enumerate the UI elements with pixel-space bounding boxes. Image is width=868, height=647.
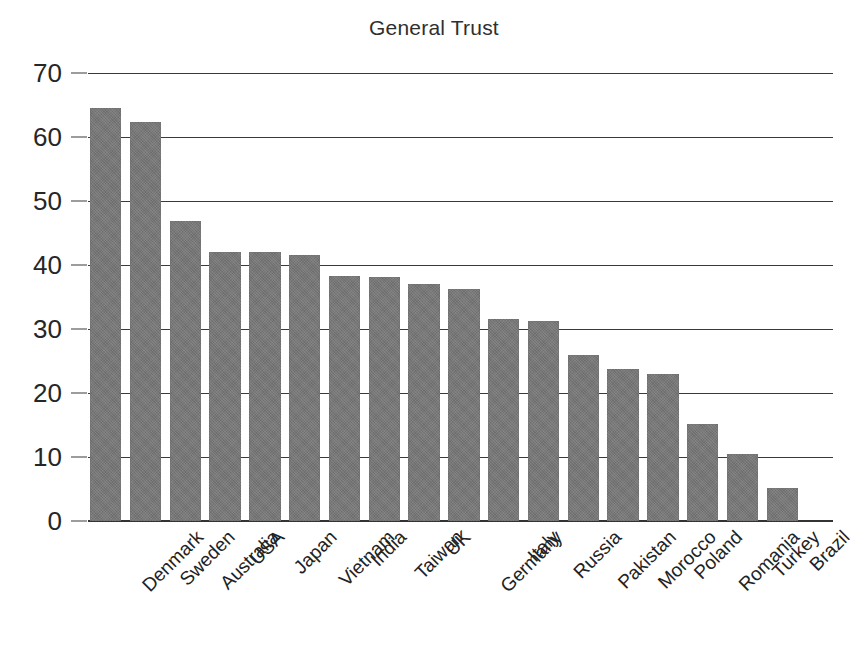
- bar: [249, 252, 280, 521]
- y-tick-label: 40: [33, 252, 62, 278]
- bar: [528, 321, 559, 521]
- plot-area: [88, 73, 833, 521]
- y-tick-label: 0: [48, 508, 62, 534]
- y-tick-label: 60: [33, 124, 62, 150]
- bar: [568, 355, 599, 521]
- bar: [170, 221, 201, 521]
- bar: [607, 369, 638, 521]
- y-tick-mark: [71, 457, 87, 458]
- y-tick-label: 70: [33, 60, 62, 86]
- gridline: [88, 201, 833, 202]
- bar: [767, 488, 798, 521]
- gridline: [88, 137, 833, 138]
- y-tick-mark: [71, 73, 87, 74]
- x-axis: DenmarkSwedenAustraliaUSAJapanVietnamInd…: [88, 521, 833, 647]
- y-tick-mark: [71, 329, 87, 330]
- y-tick-label: 50: [33, 188, 62, 214]
- y-tick-label: 10: [33, 444, 62, 470]
- x-tick-label: Japan: [290, 527, 340, 577]
- y-tick-mark: [71, 201, 87, 202]
- gridline: [88, 73, 833, 74]
- y-tick-mark: [71, 137, 87, 138]
- y-axis: 010203040506070: [0, 73, 88, 521]
- y-tick-label: 30: [33, 316, 62, 342]
- y-tick-mark: [71, 265, 87, 266]
- bar: [408, 284, 439, 521]
- bar-chart: General Trust 010203040506070 DenmarkSwe…: [0, 0, 868, 647]
- bar: [130, 122, 161, 521]
- bar: [448, 289, 479, 521]
- y-tick-mark: [71, 521, 87, 522]
- bar: [329, 276, 360, 521]
- bar: [369, 277, 400, 521]
- bar: [727, 454, 758, 521]
- bar: [209, 252, 240, 521]
- y-tick-mark: [71, 393, 87, 394]
- chart-title: General Trust: [0, 16, 868, 40]
- bar: [647, 374, 678, 521]
- bar: [90, 108, 121, 521]
- y-tick-label: 20: [33, 380, 62, 406]
- bar: [687, 424, 718, 521]
- bar: [289, 255, 320, 521]
- bar: [488, 319, 519, 521]
